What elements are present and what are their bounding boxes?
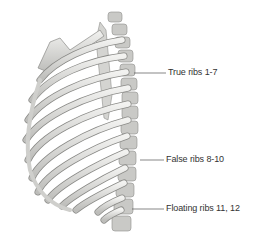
label-floating-ribs: Floating ribs 11, 12 bbox=[166, 203, 240, 213]
rib-cage-illustration bbox=[0, 0, 260, 234]
rib-cage-diagram: True ribs 1-7 False ribs 8-10 Floating r… bbox=[0, 0, 260, 234]
label-false-ribs: False ribs 8-10 bbox=[166, 154, 224, 164]
label-true-ribs: True ribs 1-7 bbox=[168, 67, 217, 77]
